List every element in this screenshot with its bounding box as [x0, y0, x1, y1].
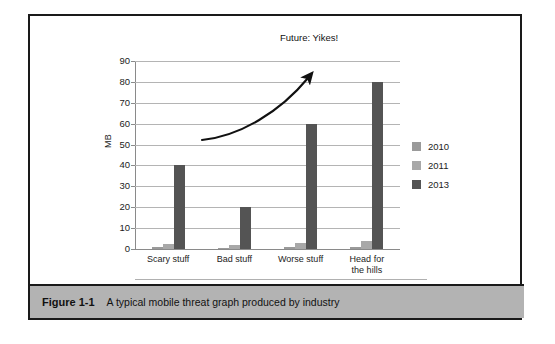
- x-axis-label: Head forthe hills: [334, 254, 400, 276]
- figure-caption-bar: Figure 1-1 A typical mobile threat graph…: [30, 284, 524, 318]
- bar-group: [152, 61, 185, 249]
- y-axis-tick-label: 80: [106, 77, 130, 87]
- y-axis-tick-label: 20: [106, 202, 130, 212]
- bar[interactable]: [361, 241, 372, 249]
- y-axis-tick-mark: [131, 186, 135, 187]
- legend-label: 2011: [428, 160, 448, 171]
- legend-label: 2013: [428, 179, 449, 190]
- bar[interactable]: [218, 248, 229, 250]
- y-axis-tick-label: 90: [106, 56, 130, 66]
- chart-legend: 201020112013: [412, 138, 492, 195]
- legend-swatch-icon: [412, 161, 421, 170]
- x-axis-category-labels: Scary stuffBad stuffWorse stuffHead fort…: [135, 254, 400, 284]
- bar[interactable]: [163, 244, 174, 249]
- y-axis-tick-label: 0: [106, 244, 130, 254]
- y-axis-tick-mark: [131, 82, 135, 83]
- y-axis-tick-mark: [131, 124, 135, 125]
- gridline: [135, 249, 400, 250]
- y-axis-tick-mark: [131, 207, 135, 208]
- bar[interactable]: [284, 247, 295, 249]
- bar[interactable]: [229, 245, 240, 249]
- y-axis-tick-label: 60: [106, 119, 130, 129]
- y-axis-tick-mark: [131, 61, 135, 62]
- y-axis-tick-label: 30: [106, 181, 130, 191]
- bar[interactable]: [295, 243, 306, 249]
- legend-item-2013[interactable]: 2013: [412, 176, 492, 192]
- bar[interactable]: [306, 124, 317, 249]
- y-axis-tick-mark: [131, 103, 135, 104]
- legend-swatch-icon: [412, 180, 421, 189]
- x-axis-label: Bad stuff: [201, 254, 267, 265]
- bar[interactable]: [372, 82, 383, 249]
- bar-group: [218, 61, 251, 249]
- chart-area: MB 0102030405060708090 Scary stuffBad st…: [30, 16, 524, 286]
- bar[interactable]: [152, 247, 163, 249]
- bar[interactable]: [240, 207, 251, 249]
- y-axis-tick-label: 50: [106, 140, 130, 150]
- bar-group: [350, 61, 383, 249]
- future-annotation-label: Future: Yikes!: [280, 32, 338, 43]
- y-axis-tick-label: 70: [106, 98, 130, 108]
- figure-caption-text: A typical mobile threat graph produced b…: [107, 296, 340, 308]
- y-axis-tick-mark: [131, 145, 135, 146]
- bar-group: [284, 61, 317, 249]
- y-axis-tick-mark: [131, 228, 135, 229]
- y-axis-tick-label: 40: [106, 160, 130, 170]
- plot-area: [135, 61, 400, 249]
- y-axis-tick-labels: 0102030405060708090: [102, 61, 130, 250]
- y-axis-tick-mark: [131, 249, 135, 250]
- legend-item-2010[interactable]: 2010: [412, 138, 492, 154]
- bar[interactable]: [174, 165, 185, 249]
- legend-item-2011[interactable]: 2011: [412, 157, 492, 173]
- bar[interactable]: [350, 247, 361, 249]
- figure-caption-number: Figure 1-1: [42, 296, 95, 308]
- x-axis-label: Scary stuff: [135, 254, 201, 265]
- y-axis-tick-mark: [131, 165, 135, 166]
- figure-frame: MB 0102030405060708090 Scary stuffBad st…: [28, 14, 522, 320]
- legend-label: 2010: [428, 141, 449, 152]
- y-axis-tick-label: 10: [106, 223, 130, 233]
- legend-swatch-icon: [412, 142, 421, 151]
- x-axis-label: Worse stuff: [268, 254, 334, 265]
